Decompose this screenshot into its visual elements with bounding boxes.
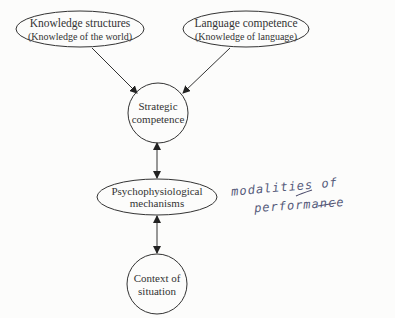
node-psycho-line1: Psychophysiological [111,185,202,197]
node-language-subtitle: (Knowledge of language) [195,31,297,43]
edge-language-strategic [183,48,230,93]
node-strategic-line1: Strategic [138,100,177,112]
node-language-competence: Language competence (Knowledge of langua… [183,11,309,47]
node-psycho-line2: mechanisms [130,197,184,209]
node-knowledge-structures: Knowledge structures (Knowledge of the w… [16,11,144,47]
node-context-of-situation: Context of situation [127,254,187,314]
node-knowledge-subtitle: (Knowledge of the world) [28,31,132,43]
node-language-title: Language competence [194,17,297,30]
node-psychophysiological-mechanisms: Psychophysiological mechanisms [97,179,217,215]
edge-knowledge-strategic [92,48,137,93]
node-strategic-line2: competence [132,113,185,125]
node-context-line2: situation [138,285,176,297]
diagram-canvas: Knowledge structures (Knowledge of the w… [0,0,395,318]
node-knowledge-title: Knowledge structures [30,17,131,30]
node-strategic-competence: Strategic competence [128,83,188,143]
node-context-line1: Context of [134,272,181,284]
